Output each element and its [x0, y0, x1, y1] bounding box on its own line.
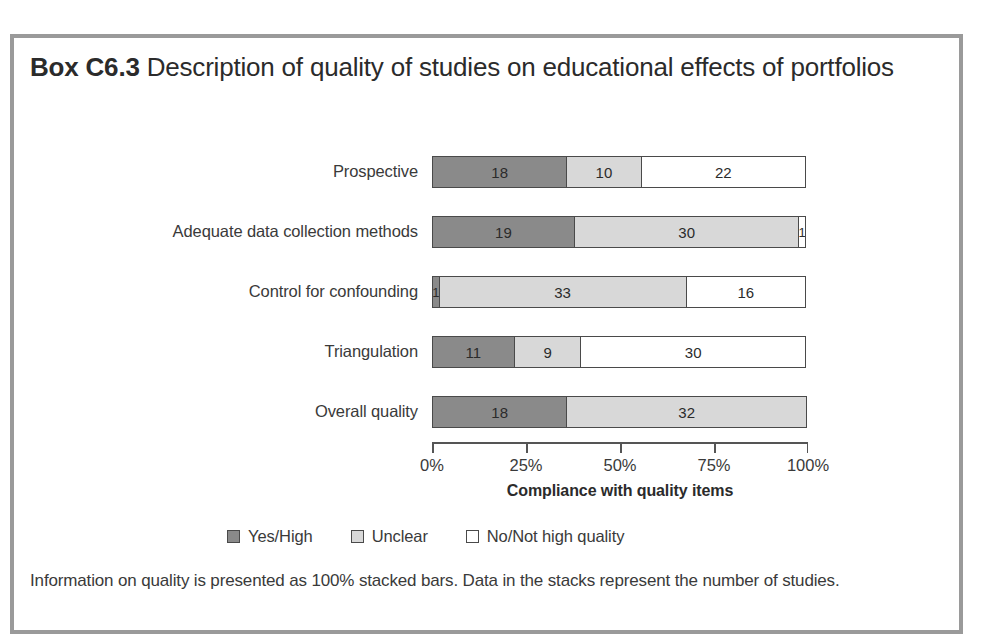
bar-segment-value: 30 — [685, 345, 702, 360]
bar-segment-value: 33 — [554, 285, 571, 300]
bar-segment: 30 — [574, 216, 800, 248]
bar-category-label: Adequate data collection methods — [0, 210, 418, 252]
bar-segment: 22 — [641, 156, 806, 188]
legend-item-label: Unclear — [372, 527, 428, 546]
legend-item[interactable]: Yes/High — [227, 527, 313, 546]
bar-segment-value: 18 — [491, 165, 508, 180]
x-axis-tick-label: 100% — [758, 456, 858, 475]
bar-row: Prospective181022 — [0, 150, 993, 192]
x-axis-tick-label: 0% — [382, 456, 482, 475]
bar-row: Triangulation11930 — [0, 330, 993, 372]
box-title-number: Box C6.3 — [30, 52, 140, 82]
legend-item-label: Yes/High — [248, 527, 313, 546]
bar-segment-value: 32 — [678, 405, 695, 420]
x-axis-tick-label: 25% — [476, 456, 576, 475]
chart-legend: Yes/HighUnclearNo/Not high quality — [227, 524, 697, 548]
bar-track: 19301 — [432, 216, 808, 248]
bar-segment-value: 10 — [596, 165, 613, 180]
bar-row: Adequate data collection methods19301 — [0, 210, 993, 252]
bar-row: Overall quality1832 — [0, 390, 993, 432]
bar-segment-value: 22 — [715, 165, 732, 180]
legend-item-label: No/Not high quality — [487, 527, 625, 546]
bar-track: 13316 — [432, 276, 808, 308]
bar-segment-value: 1 — [799, 226, 806, 239]
bar-category-label: Triangulation — [0, 330, 418, 372]
bar-segment: 11 — [432, 336, 515, 368]
bar-segment-value: 19 — [495, 225, 512, 240]
bar-segment: 10 — [566, 156, 641, 188]
legend-swatch-icon — [351, 530, 364, 543]
bar-segment: 9 — [514, 336, 582, 368]
footnote-text: Information on quality is presented as 1… — [30, 566, 925, 595]
x-axis-tick — [432, 442, 434, 453]
x-axis-tick-labels: 0%25%50%75%100% — [332, 456, 908, 480]
x-axis-tick — [807, 442, 809, 453]
stacked-bar-chart: Prospective181022Adequate data collectio… — [0, 150, 993, 450]
bar-segment: 30 — [580, 336, 806, 368]
legend-item[interactable]: Unclear — [351, 527, 428, 546]
bar-row: Control for confounding13316 — [0, 270, 993, 312]
x-axis-tick-label: 75% — [664, 456, 764, 475]
bar-category-label: Overall quality — [0, 390, 418, 432]
x-axis-title: Compliance with quality items — [432, 482, 808, 500]
legend-swatch-icon — [466, 530, 479, 543]
bar-segment: 16 — [686, 276, 806, 308]
x-axis-tick — [526, 442, 528, 453]
box-title-text: Description of quality of studies on edu… — [140, 52, 894, 82]
bar-track: 11930 — [432, 336, 808, 368]
x-axis — [432, 442, 808, 454]
bar-category-label: Control for confounding — [0, 270, 418, 312]
x-axis-tick — [620, 442, 622, 453]
bar-segment-value: 30 — [678, 225, 695, 240]
x-axis-tick — [714, 442, 716, 453]
legend-item[interactable]: No/Not high quality — [466, 527, 625, 546]
bar-segment: 18 — [432, 156, 567, 188]
bar-segment: 33 — [439, 276, 687, 308]
bar-segment-value: 16 — [737, 285, 754, 300]
page-title: Box C6.3 Description of quality of studi… — [30, 50, 930, 84]
bar-track: 181022 — [432, 156, 808, 188]
bar-segment: 32 — [566, 396, 807, 428]
bar-segment: 1 — [798, 216, 806, 248]
bar-track: 1832 — [432, 396, 808, 428]
bar-segment: 19 — [432, 216, 575, 248]
bar-category-label: Prospective — [0, 150, 418, 192]
bar-segment-value: 11 — [466, 345, 482, 360]
bar-segment: 18 — [432, 396, 567, 428]
legend-swatch-icon — [227, 530, 240, 543]
x-axis-tick-label: 50% — [570, 456, 670, 475]
bar-segment-value: 18 — [491, 405, 508, 420]
bar-segment-value: 9 — [543, 345, 551, 360]
